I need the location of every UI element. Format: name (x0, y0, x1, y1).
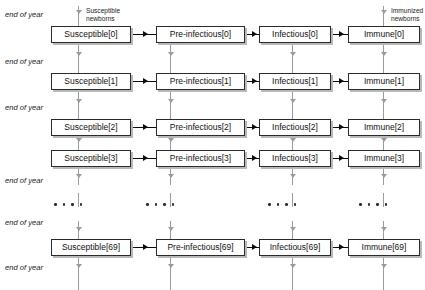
newborn-inflow-label-line1: Susceptible (86, 7, 120, 15)
end-of-year-label: end of year (5, 218, 43, 227)
ellipsis-dots-immune (359, 203, 387, 206)
newborn-inflow-label-susceptible: Susceptiblenewborns (86, 7, 120, 23)
end-of-year-label: end of year (5, 10, 43, 19)
end-of-year-label: end of year (5, 263, 43, 272)
ellipsis-dot (277, 203, 280, 206)
label-layer: end of yearend of yearend of yearend of … (0, 0, 425, 290)
ellipsis-dot (54, 203, 57, 206)
flow-diagram: Susceptible[0]Pre-infectious[0]Infectiou… (0, 0, 425, 290)
ellipsis-dot (163, 203, 166, 206)
ellipsis-dot (268, 203, 271, 206)
ellipsis-dot (376, 203, 379, 206)
ellipsis-dot (294, 203, 297, 206)
ellipsis-dot (146, 203, 149, 206)
ellipsis-dot (385, 203, 388, 206)
ellipsis-dot (71, 203, 74, 206)
newborn-inflow-label-line1: Immunized (391, 7, 423, 15)
ellipsis-dot (63, 203, 66, 206)
ellipsis-dot (155, 203, 158, 206)
newborn-inflow-label-immune: Immunizednewborns (391, 7, 423, 23)
ellipsis-dot (359, 203, 362, 206)
ellipsis-dot (80, 203, 83, 206)
newborn-inflow-label-line2: newborns (86, 15, 120, 23)
end-of-year-label: end of year (5, 176, 43, 185)
ellipsis-dot (172, 203, 175, 206)
end-of-year-label: end of year (5, 57, 43, 66)
ellipsis-dots-infectious (268, 203, 296, 206)
ellipsis-dot (368, 203, 371, 206)
ellipsis-dot (285, 203, 288, 206)
ellipsis-dots-pre-infectious (146, 203, 174, 206)
end-of-year-label: end of year (5, 103, 43, 112)
newborn-inflow-label-line2: newborns (391, 15, 423, 23)
ellipsis-dots-susceptible (54, 203, 82, 206)
